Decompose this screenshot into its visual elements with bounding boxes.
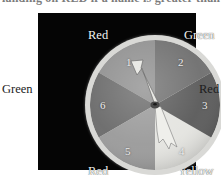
header-text: landing on RED if a name is greater than…	[2, 0, 221, 6]
spinner-panel: Red Green Red Yellow	[38, 13, 196, 170]
spinner-wheel[interactable]: 1 2 3 4 5 6	[85, 35, 221, 175]
figure-root: landing on RED if a name is greater than…	[0, 0, 221, 175]
label-right-outside: Red	[199, 82, 219, 97]
label-left-outside: Green	[2, 82, 33, 97]
spinner-needle-layer	[85, 35, 221, 175]
needle-pin	[153, 103, 157, 106]
cropped-header-strip: landing on RED if a name is greater than…	[0, 0, 221, 9]
needle-arrow[interactable]	[131, 60, 158, 105]
needle-tail[interactable]	[155, 105, 177, 149]
spinner-needle-svg[interactable]	[85, 35, 221, 175]
